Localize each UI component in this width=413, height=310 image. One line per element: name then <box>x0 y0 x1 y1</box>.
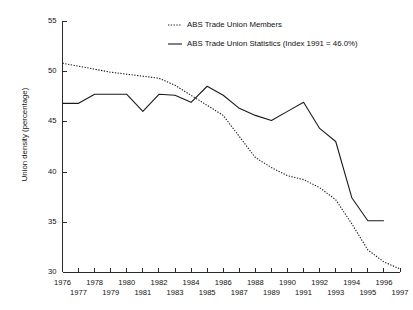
y-axis-tick-label: 35 <box>35 217 57 226</box>
x-axis-tick-label: 1996 <box>369 278 399 287</box>
y-axis-tick-label: 40 <box>35 167 57 176</box>
y-axis-tick-label: 45 <box>35 116 57 125</box>
legend-item-abs-trade-union-statistics: ABS Trade Union Statistics (Index 1991 =… <box>187 39 358 49</box>
x-axis-tick-label: 1986 <box>208 278 238 287</box>
y-axis-ticks <box>63 22 68 273</box>
x-axis-tick-label: 1991 <box>289 288 319 297</box>
x-axis-tick-label: 1977 <box>64 288 94 297</box>
x-axis-tick-label: 1995 <box>353 288 383 297</box>
x-axis-tick-label: 1989 <box>256 288 286 297</box>
x-axis-tick-label: 1997 <box>385 288 413 297</box>
y-axis-title: Union density (percentage) <box>20 60 29 210</box>
y-axis-tick-label: 30 <box>35 267 57 276</box>
x-axis-tick-label: 1987 <box>224 288 254 297</box>
x-axis-tick-label: 1976 <box>48 278 78 287</box>
x-axis-tick-label: 1988 <box>240 278 270 287</box>
chart-series-group <box>63 63 401 269</box>
x-axis-tick-label: 1994 <box>337 278 367 287</box>
x-axis-tick-label: 1985 <box>192 288 222 297</box>
x-axis-tick-label: 1993 <box>321 288 351 297</box>
x-axis-tick-label: 1978 <box>80 278 110 287</box>
legend-line-samples <box>168 25 182 44</box>
x-axis-tick-label: 1982 <box>144 278 174 287</box>
legend-item-abs-trade-union-members: ABS Trade Union Members <box>187 20 282 30</box>
x-axis-tick-label: 1983 <box>160 288 190 297</box>
chart-container: Union density (percentage) 555045403530 … <box>0 0 413 310</box>
x-axis-tick-label: 1981 <box>128 288 158 297</box>
x-axis-tick-label: 1980 <box>112 278 142 287</box>
x-axis-tick-label: 1992 <box>305 278 335 287</box>
y-axis-tick-label: 55 <box>35 16 57 25</box>
x-axis-tick-label: 1984 <box>176 278 206 287</box>
y-axis-tick-label: 50 <box>35 66 57 75</box>
x-axis-tick-label: 1979 <box>96 288 126 297</box>
x-axis-ticks <box>63 268 401 273</box>
chart-axes <box>63 21 401 273</box>
x-axis-tick-label: 1990 <box>273 278 303 287</box>
